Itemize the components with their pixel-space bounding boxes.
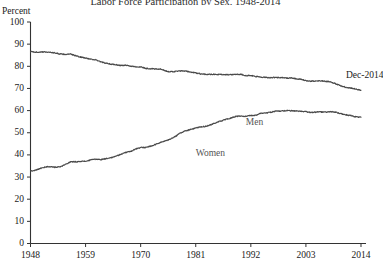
series-line-men <box>31 51 361 90</box>
series-line-women <box>31 110 361 171</box>
series-group <box>31 51 361 171</box>
